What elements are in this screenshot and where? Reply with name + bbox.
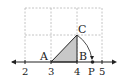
tick-label-3: 3 bbox=[48, 66, 54, 77]
right-arrow-icon bbox=[112, 60, 117, 65]
point-p-dot bbox=[91, 60, 95, 64]
tick-label-5: 5 bbox=[99, 66, 105, 77]
point-label-c: C bbox=[78, 23, 86, 36]
triangle-abc bbox=[51, 35, 77, 62]
point-label-b: B bbox=[79, 50, 87, 63]
point-label-p: P bbox=[88, 66, 95, 77]
left-arrow-icon bbox=[11, 60, 16, 65]
tick-label-2: 2 bbox=[22, 66, 28, 77]
diagram-canvas: 2 3 4 5 P A B C bbox=[0, 0, 119, 78]
point-label-a: A bbox=[39, 50, 49, 63]
arc-arrowhead bbox=[90, 56, 94, 60]
tick-label-4: 4 bbox=[74, 66, 80, 77]
